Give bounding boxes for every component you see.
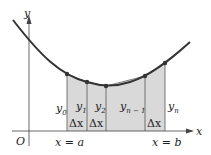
delta-x-label-2: Δx (89, 117, 104, 130)
right-bound-label: x = b (152, 136, 181, 149)
x-axis-label: x (196, 125, 203, 138)
y-axis-label: y (23, 7, 31, 20)
delta-x-label-n: Δx (147, 117, 162, 130)
delta-x-label-1: Δx (69, 117, 84, 130)
origin-label: O (16, 135, 25, 148)
left-bound-label: x = a (55, 136, 84, 149)
ordinate-label-y0: y0 (55, 102, 67, 117)
x-axis-arrow-icon (186, 129, 194, 134)
trapezoid-diagram: y x O x = a x = b y0 y1 y2 yn − 1 yn Δx … (0, 0, 211, 155)
ordinate-label-yn: yn (167, 100, 179, 115)
